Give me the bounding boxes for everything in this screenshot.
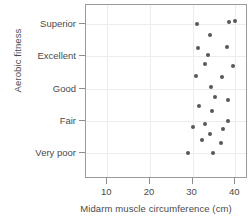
plot-area	[85, 4, 247, 178]
data-point	[221, 127, 225, 131]
data-point	[191, 125, 195, 129]
x-axis-tick	[192, 178, 193, 184]
x-axis-tick-label: 40	[219, 186, 249, 197]
data-point	[196, 46, 200, 50]
y-gridline	[86, 89, 246, 90]
y-gridline	[86, 121, 246, 122]
data-point	[200, 138, 204, 142]
y-axis-tick	[79, 23, 85, 24]
x-axis-tick-label: 20	[134, 186, 164, 197]
data-point	[226, 98, 230, 102]
data-point	[227, 20, 231, 24]
y-gridline	[86, 153, 246, 154]
y-axis-tick	[79, 120, 85, 121]
data-point	[206, 53, 210, 57]
y-axis-tick-label: Superior	[40, 18, 76, 29]
x-gridline	[235, 5, 236, 177]
data-point	[208, 132, 212, 136]
data-point	[231, 64, 235, 68]
data-point	[208, 33, 212, 37]
data-point	[220, 75, 224, 79]
data-point	[225, 45, 229, 49]
data-point	[233, 19, 237, 23]
data-point	[210, 109, 214, 113]
y-axis-tick-label: Very poor	[35, 147, 76, 158]
scatter-plot-figure: Aerobic fitness 10203040SuperiorExcellen…	[0, 0, 252, 219]
y-gridline	[86, 56, 246, 57]
y-axis-tick-label: Good	[53, 82, 76, 93]
data-point	[186, 151, 190, 155]
y-axis-tick	[79, 55, 85, 56]
y-axis-tick	[79, 152, 85, 153]
x-axis-tick-label: 30	[177, 186, 207, 197]
data-point	[219, 141, 223, 145]
x-axis-tick	[149, 178, 150, 184]
data-point	[195, 22, 199, 26]
y-gridline	[86, 24, 246, 25]
y-axis-tick-label: Excellent	[37, 50, 76, 61]
data-point	[203, 122, 207, 126]
y-axis-tick	[79, 88, 85, 89]
x-gridline	[193, 5, 194, 177]
y-axis-tick-label: Fair	[60, 114, 76, 125]
data-point	[194, 74, 198, 78]
y-axis-label: Aerobic fitness	[12, 1, 23, 121]
data-point	[197, 104, 201, 108]
x-gridline	[150, 5, 151, 177]
data-point	[203, 62, 207, 66]
data-point	[211, 151, 215, 155]
x-gridline	[107, 5, 108, 177]
data-point	[226, 119, 230, 123]
x-axis-tick	[106, 178, 107, 184]
x-axis-label: Midarm muscle circumference (cm)	[60, 203, 252, 214]
x-axis-tick	[234, 178, 235, 184]
x-axis-tick-label: 10	[91, 186, 121, 197]
data-point	[213, 95, 217, 99]
data-point	[209, 85, 213, 89]
